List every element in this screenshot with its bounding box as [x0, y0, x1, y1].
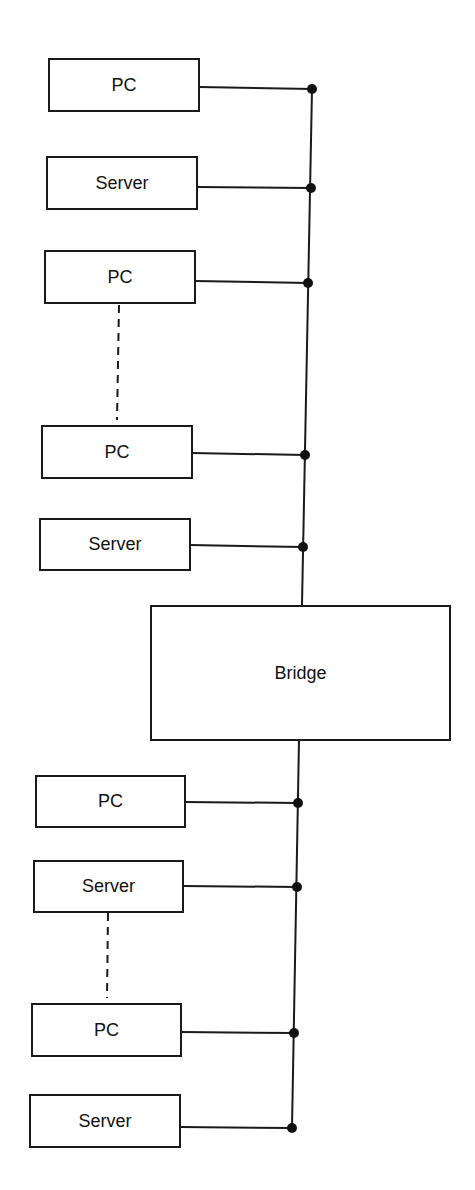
- server-node: Server: [33, 860, 184, 913]
- node-label: Server: [78, 1111, 131, 1132]
- pc-node: PC: [35, 775, 186, 828]
- server-node: Server: [29, 1094, 181, 1148]
- server-node: Server: [46, 156, 198, 210]
- node-label: Server: [95, 173, 148, 194]
- ellipsis-lower: [107, 913, 108, 998]
- pc-node: PC: [48, 58, 200, 112]
- node-label: PC: [104, 442, 129, 463]
- ellipsis-upper: [117, 305, 119, 420]
- bridge-label: Bridge: [274, 663, 326, 684]
- pc-node: PC: [44, 250, 196, 304]
- node-label: Server: [88, 534, 141, 555]
- node-label: PC: [94, 1020, 119, 1041]
- node-label: PC: [107, 267, 132, 288]
- node-label: Server: [82, 876, 135, 897]
- node-label: PC: [111, 75, 136, 96]
- server-node: Server: [39, 518, 191, 571]
- bridge-node: Bridge: [150, 605, 451, 741]
- node-label: PC: [98, 791, 123, 812]
- pc-node: PC: [31, 1003, 182, 1057]
- pc-node: PC: [41, 425, 193, 479]
